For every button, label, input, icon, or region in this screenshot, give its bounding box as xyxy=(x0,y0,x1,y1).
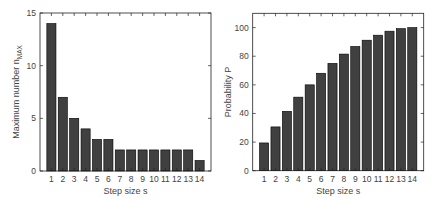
x-tick-label: 13 xyxy=(183,174,193,184)
x-tick-label: 2 xyxy=(60,174,65,184)
y-tick-label: 60 xyxy=(239,80,249,90)
bar xyxy=(149,150,158,171)
bar xyxy=(161,150,170,171)
y-tick-label: 0 xyxy=(31,166,36,176)
bar xyxy=(271,127,280,171)
y-axis-label: Maximum number nMAX xyxy=(11,45,23,139)
y-tick-label: 0 xyxy=(244,166,249,176)
bar xyxy=(104,139,113,171)
x-tick-label: 1 xyxy=(262,174,267,184)
bar xyxy=(374,35,383,171)
x-tick-label: 10 xyxy=(149,174,159,184)
y-tick-label: 5 xyxy=(31,113,36,123)
y-axis-label: Probability P xyxy=(223,67,233,118)
bar xyxy=(294,97,303,171)
bar xyxy=(115,150,124,171)
x-tick-label: 7 xyxy=(117,174,122,184)
bar xyxy=(260,143,269,171)
y-tick-label: 40 xyxy=(239,108,249,118)
x-tick-label: 4 xyxy=(296,174,301,184)
bar xyxy=(317,73,326,170)
x-tick-label: 12 xyxy=(385,174,395,184)
x-tick-label: 7 xyxy=(330,174,335,184)
bar xyxy=(58,97,67,171)
y-tick-label: 10 xyxy=(27,61,37,71)
x-tick-label: 11 xyxy=(161,174,170,184)
max-number-bar-chart: 0510151234567891011121314Step size sMaxi… xyxy=(0,0,218,205)
x-tick-label: 3 xyxy=(72,174,77,184)
x-tick-label: 10 xyxy=(362,174,372,184)
y-tick-label: 100 xyxy=(235,23,249,33)
x-tick-label: 8 xyxy=(342,174,347,184)
x-tick-label: 5 xyxy=(307,174,312,184)
x-tick-label: 9 xyxy=(353,174,358,184)
bar xyxy=(138,150,147,171)
x-tick-label: 6 xyxy=(106,174,111,184)
bar xyxy=(385,31,394,171)
x-tick-label: 1 xyxy=(49,174,54,184)
right-chart-panel: 0204060801001234567891011121314Step size… xyxy=(218,0,437,205)
bar xyxy=(351,47,360,171)
bar xyxy=(127,150,136,171)
bar xyxy=(339,54,348,171)
x-tick-label: 5 xyxy=(95,174,100,184)
left-chart-panel: 0510151234567891011121314Step size sMaxi… xyxy=(0,0,218,205)
bar xyxy=(92,139,101,171)
bar xyxy=(184,150,193,171)
x-tick-label: 8 xyxy=(129,174,134,184)
bar xyxy=(362,40,371,171)
bar xyxy=(70,118,79,171)
x-tick-label: 14 xyxy=(408,174,418,184)
x-tick-label: 2 xyxy=(273,174,278,184)
bar xyxy=(408,28,417,171)
x-axis-label: Step size s xyxy=(103,186,148,196)
y-tick-label: 15 xyxy=(27,8,37,18)
x-tick-label: 12 xyxy=(172,174,182,184)
x-tick-label: 4 xyxy=(83,174,88,184)
x-axis-label: Step size s xyxy=(316,186,361,196)
x-tick-label: 11 xyxy=(374,174,383,184)
bar xyxy=(396,29,405,171)
bar xyxy=(81,129,90,171)
bar xyxy=(47,24,56,171)
x-tick-label: 6 xyxy=(319,174,324,184)
x-tick-label: 9 xyxy=(140,174,145,184)
bar xyxy=(172,150,181,171)
bar xyxy=(305,85,314,171)
x-tick-label: 14 xyxy=(195,174,205,184)
x-tick-label: 13 xyxy=(396,174,406,184)
probability-bar-chart: 0204060801001234567891011121314Step size… xyxy=(218,0,437,205)
x-tick-label: 3 xyxy=(285,174,290,184)
bar xyxy=(328,63,337,170)
y-tick-label: 20 xyxy=(239,137,249,147)
bar xyxy=(282,111,291,170)
y-tick-label: 80 xyxy=(239,51,249,61)
